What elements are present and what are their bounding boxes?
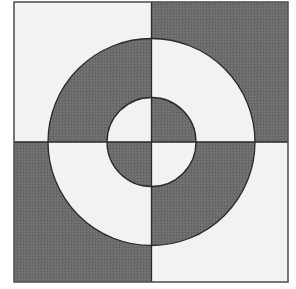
checkered-target-diagram: [0, 0, 296, 289]
